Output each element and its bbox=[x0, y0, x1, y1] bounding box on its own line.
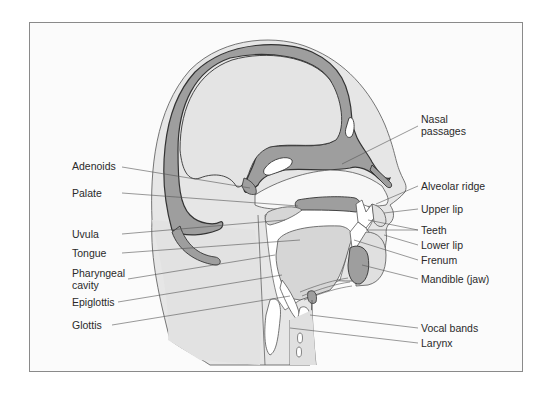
label-pharyngeal-line2: cavity bbox=[72, 279, 125, 291]
label-nasal-line2: passages bbox=[421, 125, 466, 137]
label-pharyngeal-cavity: Pharyngeal cavity bbox=[72, 267, 125, 291]
label-adenoids: Adenoids bbox=[72, 160, 116, 172]
label-nasal-passages: Nasal passages bbox=[421, 113, 466, 137]
label-mandible: Mandible (jaw) bbox=[421, 273, 489, 285]
label-lower-lip: Lower lip bbox=[421, 239, 463, 251]
label-vocal-bands: Vocal bands bbox=[421, 322, 478, 334]
label-teeth: Teeth bbox=[421, 224, 447, 236]
trachea-ring bbox=[297, 347, 302, 357]
label-tongue: Tongue bbox=[72, 247, 106, 259]
label-glottis: Glottis bbox=[72, 319, 102, 331]
label-frenum: Frenum bbox=[421, 254, 457, 266]
label-nasal-line1: Nasal bbox=[421, 113, 466, 125]
label-pharyngeal-line1: Pharyngeal bbox=[72, 267, 125, 279]
label-palate: Palate bbox=[72, 187, 102, 199]
neck-tissue bbox=[152, 220, 262, 365]
label-larynx: Larynx bbox=[421, 337, 453, 349]
trachea-fill bbox=[290, 310, 316, 365]
label-epiglottis: Epiglottis bbox=[72, 296, 115, 308]
label-alveolar-ridge: Alveolar ridge bbox=[421, 180, 485, 192]
leader-vocal-bands bbox=[310, 315, 418, 328]
leader-lower-lip bbox=[384, 235, 418, 245]
hard-palate bbox=[295, 197, 360, 212]
mandible-bone bbox=[348, 246, 369, 284]
label-uvula: Uvula bbox=[72, 228, 99, 240]
trachea-ring bbox=[298, 333, 303, 343]
label-upper-lip: Upper lip bbox=[421, 203, 463, 215]
